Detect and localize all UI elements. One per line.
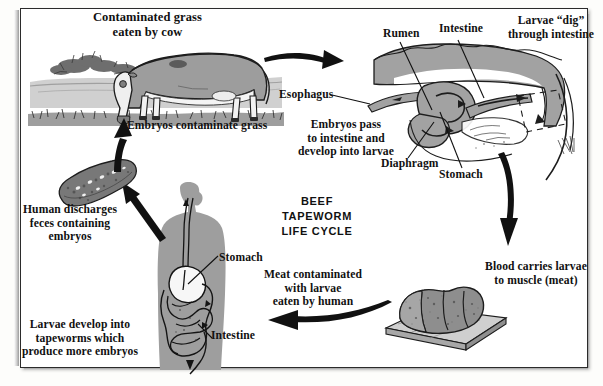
- roast-meat-illustration: [382, 278, 510, 356]
- label-larvae-dig: Larvae “dig” through intestine: [504, 14, 598, 41]
- leader-rumen: [398, 40, 434, 112]
- diagram-page: Contaminated grass eaten by cow Embryos …: [0, 0, 603, 386]
- label-diaphragm: Diaphragm: [381, 157, 439, 171]
- label-human-intestine: Intestine: [211, 329, 255, 343]
- label-human-stomach: Stomach: [219, 251, 263, 265]
- label-cow-stomach: Stomach: [439, 168, 483, 182]
- leader-diaphragm: [406, 120, 436, 160]
- leader-cow-intestine: [450, 38, 486, 100]
- arrow-anatomy-to-meat: [494, 150, 530, 258]
- label-larvae-develop: Larvae develop into tapeworms which prod…: [8, 318, 152, 359]
- leader-human-stomach: [186, 254, 220, 286]
- diagram-title: BEEF TAPEWORM LIFE CYCLE: [264, 194, 370, 239]
- leader-cow-stomach: [438, 110, 468, 170]
- label-embryos-pass: Embryos pass to intestine and develop in…: [286, 118, 406, 159]
- label-meat-contaminated: Meat contaminated with larvae eaten by h…: [256, 268, 370, 309]
- label-rumen: Rumen: [383, 27, 420, 41]
- leader-esophagus: [330, 92, 372, 106]
- label-human-discharges: Human discharges feces containing embryo…: [8, 203, 132, 244]
- page-left-edge-shading: [14, 10, 19, 366]
- label-embryos-contaminate-grass: Embryos contaminate grass: [127, 119, 287, 133]
- pasture-scene-illustration: [28, 30, 284, 130]
- label-cow-intestine: Intestine: [439, 22, 483, 36]
- label-contaminated-grass: Contaminated grass eaten by cow: [70, 10, 225, 40]
- label-esophagus: Esophagus: [279, 88, 333, 102]
- label-blood-carries: Blood carries larvae to muscle (meat): [484, 260, 588, 287]
- arrow-cow-to-anatomy: [262, 48, 348, 78]
